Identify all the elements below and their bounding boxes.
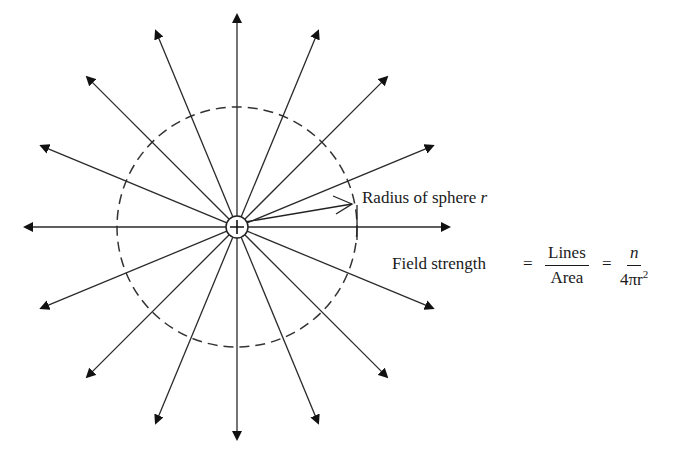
fraction-denominator: Area [547, 266, 586, 288]
exponent: 2 [643, 268, 649, 280]
field-line [87, 235, 229, 377]
fraction-numerator: Lines [545, 243, 589, 266]
field-line [156, 31, 233, 217]
field-line [41, 146, 227, 223]
radius-arrow [245, 204, 352, 222]
field-line [241, 237, 318, 423]
field-line [156, 237, 233, 423]
radius-text: Radius of sphere [362, 188, 481, 207]
equals-sign-1: = [523, 254, 533, 274]
area-formula: 4πr [620, 270, 643, 289]
field-line [245, 235, 387, 377]
n-over-area-fraction: n 4πr2 [617, 243, 651, 290]
fraction-denominator-area: 4πr2 [617, 266, 651, 290]
field-line [87, 77, 229, 219]
radius-variable: r [481, 188, 488, 207]
fraction-numerator-n: n [627, 243, 642, 266]
lines-over-area-fraction: Lines Area [545, 243, 589, 288]
field-lines-diagram [0, 0, 692, 454]
field-line [241, 31, 318, 217]
equals-sign-2: = [602, 254, 612, 274]
field-line [41, 231, 227, 308]
field-strength-label: Field strength [392, 254, 486, 274]
radius-label: Radius of sphere r [362, 188, 487, 208]
